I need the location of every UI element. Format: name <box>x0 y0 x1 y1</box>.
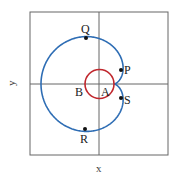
region-b-label: B <box>75 85 83 99</box>
point-s-marker <box>119 96 123 100</box>
point-q-marker <box>84 36 88 40</box>
point-r-label: R <box>80 132 88 146</box>
diagram-canvas: Q P S R A B x y <box>0 0 178 181</box>
region-a-label: A <box>101 85 110 99</box>
point-p-marker <box>119 68 123 72</box>
point-s-label: S <box>124 93 131 107</box>
y-axis-label: y <box>5 80 17 86</box>
point-q-label: Q <box>81 22 90 36</box>
point-r-marker <box>83 127 87 131</box>
point-p-label: P <box>124 63 131 77</box>
x-axis-label: x <box>96 162 102 174</box>
